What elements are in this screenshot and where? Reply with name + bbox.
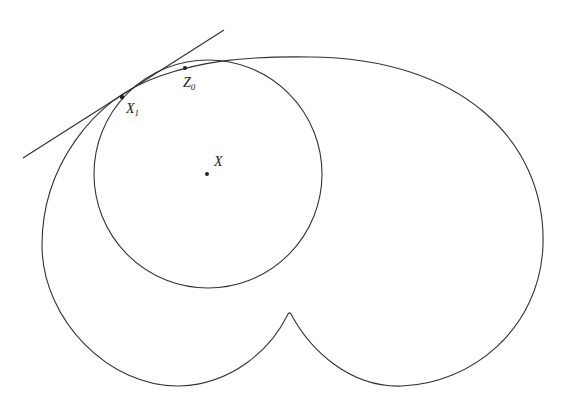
label-x: X — [213, 154, 223, 169]
point-z0 — [183, 66, 187, 70]
tangent-line — [23, 30, 224, 158]
point-x — [205, 172, 209, 176]
label-z0: Z0 — [183, 75, 196, 92]
label-x1: X1 — [125, 101, 139, 118]
outer-curve — [42, 57, 543, 386]
point-x1 — [120, 95, 124, 99]
geometry-diagram: X1 Z0 X — [0, 0, 562, 404]
